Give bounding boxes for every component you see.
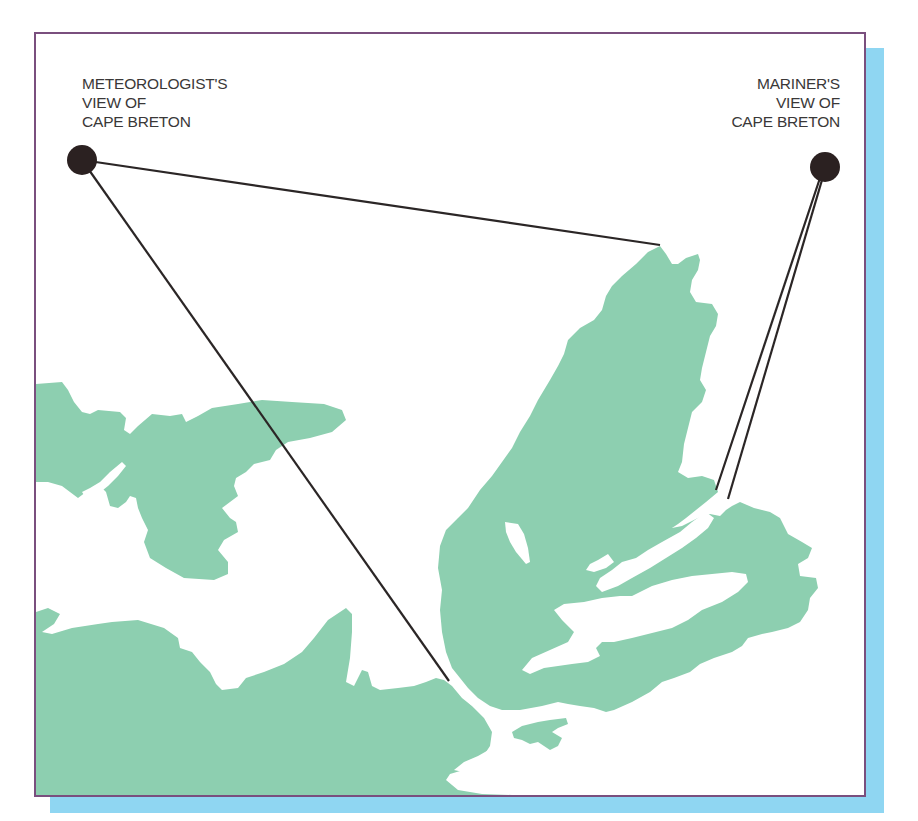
- mariner-label-line1: MARINER'S: [731, 74, 840, 93]
- mariner-label-line2: VIEW OF: [731, 93, 840, 112]
- mariner-viewpoint-dot: [810, 152, 840, 182]
- meteorologist-label-line1: METEOROLOGIST'S: [82, 74, 228, 93]
- sight-line-meteorologist-south: [82, 160, 449, 681]
- meteorologist-label-line3: CAPE BRETON: [82, 112, 228, 131]
- map-canvas: [36, 34, 864, 795]
- mariner-label: MARINER'S VIEW OF CAPE BRETON: [731, 74, 840, 131]
- map-frame: METEOROLOGIST'S VIEW OF CAPE BRETON MARI…: [34, 32, 866, 797]
- sight-line-mariner-2: [728, 180, 822, 499]
- meteorologist-label: METEOROLOGIST'S VIEW OF CAPE BRETON: [82, 74, 228, 131]
- meteorologist-viewpoint-dot: [67, 145, 97, 175]
- meteorologist-label-line2: VIEW OF: [82, 93, 228, 112]
- sight-line-meteorologist-north: [82, 160, 660, 245]
- land-prince-edward-island: [36, 382, 346, 580]
- land-cape-breton-island: [438, 246, 818, 712]
- mariner-label-line3: CAPE BRETON: [731, 112, 840, 131]
- sight-line-mariner-1: [716, 178, 820, 490]
